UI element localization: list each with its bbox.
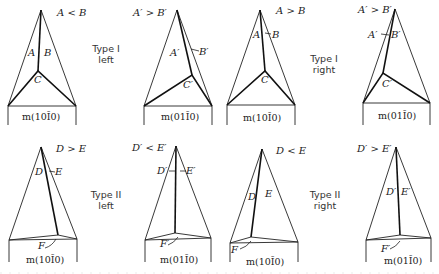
face-label-bottom: F′ <box>159 238 170 249</box>
ridge-ab <box>383 9 395 73</box>
panel-type1-right-m1010: A > B A B C m(10Ī0) <box>227 5 305 125</box>
ridge-de <box>41 147 58 235</box>
type-label-type1-right: Type I right <box>309 53 338 75</box>
face-label-left: A′ <box>169 47 180 58</box>
ridge-ab <box>260 10 265 71</box>
base-edge <box>145 238 211 240</box>
face-label-left: D′ <box>385 186 397 197</box>
face-label-bottom: F <box>37 240 46 251</box>
face-label-right: B′ <box>390 29 401 40</box>
panel-type1-left-m0110: A′ > B′ A′ B′ C′ m(01Ī0) <box>132 7 212 125</box>
face-label-right: E′ <box>400 186 411 197</box>
svg-text:right: right <box>314 200 337 211</box>
type-label-type2-left: Type II left <box>90 189 121 211</box>
ridge-ab <box>38 10 41 71</box>
face-label-bottom: F <box>230 244 239 255</box>
arrow-a <box>381 34 389 35</box>
face-label-left: A <box>252 29 260 40</box>
face-label-bottom: C′ <box>382 78 393 89</box>
ridge-de <box>396 147 400 235</box>
svg-text:left: left <box>98 54 114 65</box>
relation-label: D′ < E′ <box>131 142 167 153</box>
pyramid-outline <box>8 10 76 106</box>
ridge-c <box>363 73 430 103</box>
arrow-f <box>390 241 400 249</box>
prism-label: m(10Ī0) <box>26 254 64 265</box>
face-label-left: A <box>27 47 35 58</box>
pyramid-outline <box>145 146 211 240</box>
face-label-right: E <box>54 166 63 177</box>
face-label-left: D′ <box>156 165 168 176</box>
prism-label: m(01Ī0) <box>378 110 416 121</box>
face-label-bottom: C <box>34 74 42 85</box>
face-label-right: B′ <box>198 46 209 57</box>
arrow-f <box>45 239 56 248</box>
face-label-left: D <box>34 166 43 177</box>
panel-type2-right-m1010: D < E D E F m(10Ī0) <box>230 145 307 267</box>
svg-text:Type I: Type I <box>309 53 338 64</box>
svg-text:Type I: Type I <box>91 43 120 54</box>
crystal-face-diagram: A < B A B C m(10Ī0) Type I left A′ > B′ … <box>0 0 439 274</box>
arrow-b <box>265 33 271 34</box>
prism-label: m(01Ī0) <box>161 111 199 122</box>
panel-type2-left-m0110: D′ < E′ D′ E′ F′ m(01Ī0) <box>131 142 211 265</box>
ridge-c <box>144 75 212 106</box>
svg-text:left: left <box>98 200 114 211</box>
svg-text:Type II: Type II <box>309 189 340 200</box>
type-label-type2-right: Type II right <box>309 189 340 211</box>
arrow-f <box>240 241 251 249</box>
base-edge <box>230 242 298 243</box>
prism-label: m(10Ī0) <box>246 256 284 267</box>
panel-type1-left-m1010: A < B A B C m(10Ī0) <box>8 7 86 125</box>
relation-label: A > B <box>275 5 305 16</box>
type-label-type1-left: Type I left <box>91 43 120 65</box>
svg-text:Type II: Type II <box>90 189 121 200</box>
face-label-right: B <box>43 47 51 58</box>
svg-text:right: right <box>313 64 336 75</box>
ridge-de <box>175 146 176 233</box>
relation-label: A < B <box>56 7 86 18</box>
prism-label: m(01Ī0) <box>160 254 198 265</box>
relation-label: A′ > B′ <box>357 4 393 15</box>
pyramid-outline <box>230 149 298 243</box>
arrow-f <box>168 237 178 245</box>
prism-label: m(10Ī0) <box>22 111 60 122</box>
face-label-bottom: C′ <box>183 79 194 90</box>
face-label-bottom: F′ <box>380 243 391 254</box>
relation-label: A′ > B′ <box>132 7 168 18</box>
prism-label: m(10Ī0) <box>243 112 281 123</box>
face-label-left: D <box>247 191 256 202</box>
face-label-left: A′ <box>367 29 378 40</box>
panel-type1-right-m0110: A′ > B′ A′ B′ C′ m(01Ī0) <box>357 4 430 125</box>
face-label-right: E′ <box>185 165 196 176</box>
panel-type2-right-m0110: D′ > E′ D′ E′ F′ m(01Ī0) <box>356 143 431 266</box>
prism-label: m(01Ī0) <box>384 255 422 266</box>
relation-label: D > E <box>55 143 87 154</box>
face-label-right: B <box>271 29 279 40</box>
panel-type2-left-m1010: D > E D E F m(10Ī0) <box>9 143 87 265</box>
face-label-bottom: C <box>261 74 269 85</box>
relation-label: D′ > E′ <box>356 143 392 154</box>
ridge-ab <box>177 10 192 75</box>
relation-label: D < E <box>275 145 307 156</box>
face-label-right: E <box>264 188 273 199</box>
